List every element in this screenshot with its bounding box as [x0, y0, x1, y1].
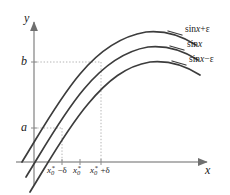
label-var-x: x [198, 39, 202, 49]
tick-sup-star: * [52, 164, 55, 171]
curve-label-sin-x-minus-epsilon: sinx−ε [189, 55, 214, 65]
y-value-label-b: b [21, 55, 27, 67]
epsilon-delta-figure: y x b a x0*−δ x0* x0*+δ sinx+ε sinx sinx… [0, 0, 230, 195]
label-prefix-sin: sin [187, 39, 198, 49]
label-prefix-sin: sin [189, 54, 200, 64]
tick-suffix-minus-delta: −δ [58, 165, 67, 175]
tick-suffix-plus-delta: +δ [101, 165, 110, 175]
y-axis-label: y [24, 12, 29, 24]
x-tick-label-x0-plus-delta: x0*+δ [90, 166, 110, 175]
label-suffix-plus-epsilon: +ε [200, 24, 209, 34]
curve-label-sin-x: sinx [187, 40, 202, 50]
tick-sup-star: * [95, 164, 98, 171]
x-tick-label-x0: x0* [73, 166, 84, 175]
y-value-label-a: a [21, 121, 27, 133]
curve-label-sin-x-plus-epsilon: sinx+ε [185, 25, 210, 35]
x-tick-label-x0-minus-delta: x0*−δ [47, 166, 67, 175]
label-suffix-minus-epsilon: −ε [204, 54, 213, 64]
curve-sin-x-plus-epsilon [22, 32, 196, 162]
label-prefix-sin: sin [185, 24, 196, 34]
tick-sup-star: * [78, 164, 81, 171]
x-axis-label: x [205, 164, 210, 176]
